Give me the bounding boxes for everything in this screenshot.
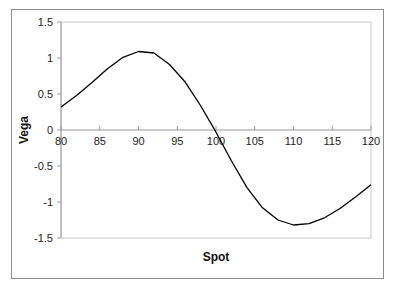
y-tick-label: 1: [47, 52, 53, 64]
y-tick-label: -1: [43, 196, 53, 208]
vega-line-chart: 80859095100105110115120 1.510.50-0.5-1-1…: [0, 0, 395, 281]
y-axis-title: Vega: [17, 116, 31, 144]
y-tick-label: -0.5: [34, 160, 53, 172]
x-tick-label: 95: [171, 135, 183, 147]
x-tick-label: 90: [132, 135, 144, 147]
x-tick-label: 110: [285, 135, 303, 147]
x-tick-label: 80: [55, 135, 67, 147]
x-tick-label: 105: [246, 135, 264, 147]
y-tick-label: 0: [47, 124, 53, 136]
x-axis-title: Spot: [203, 250, 230, 264]
x-tick-label: 120: [362, 135, 380, 147]
y-tick-label: -1.5: [34, 232, 53, 244]
y-axis-ticks: 1.510.50-0.5-1-1.5: [34, 16, 61, 244]
x-tick-label: 85: [94, 135, 106, 147]
y-tick-label: 0.5: [38, 88, 53, 100]
x-tick-label: 115: [323, 135, 341, 147]
y-tick-label: 1.5: [38, 16, 53, 28]
